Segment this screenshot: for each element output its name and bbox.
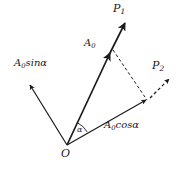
label-a0-sin-subscript: 0 bbox=[21, 62, 25, 70]
label-a0-cos-subscript: 0 bbox=[111, 124, 115, 132]
label-p2-subscript: 2 bbox=[159, 64, 164, 73]
vector-a0-sin-alpha bbox=[30, 85, 67, 145]
vector-p2 bbox=[150, 79, 169, 98]
label-a0: A0 bbox=[84, 38, 96, 48]
vector-p1 bbox=[108, 23, 125, 57]
label-a0-cos-rest: cosα bbox=[116, 119, 140, 130]
label-origin: O bbox=[61, 148, 70, 159]
vector-diagram-canvas bbox=[0, 0, 192, 173]
vector-diagram-figure: P1 P2 A0 A0sinα A0cosα O α bbox=[0, 0, 192, 173]
vector-a0 bbox=[67, 53, 110, 145]
label-p1: P1 bbox=[113, 3, 125, 14]
label-p2: P2 bbox=[152, 60, 164, 71]
label-a0-subscript: 0 bbox=[91, 42, 95, 50]
label-p1-subscript: 1 bbox=[120, 7, 125, 16]
label-a0-cos-alpha: A0cosα bbox=[104, 120, 139, 130]
label-a0-sin-rest: sinα bbox=[26, 57, 48, 68]
label-angle-alpha: α bbox=[77, 126, 82, 134]
projection-line-dashed bbox=[113, 50, 147, 100]
label-a0-sin-alpha: A0sinα bbox=[14, 58, 47, 68]
